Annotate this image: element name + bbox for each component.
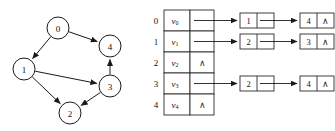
- graph-node-layer: 01234: [13, 17, 121, 124]
- graph-edge-1-to-2: [32, 77, 60, 104]
- list-node-value-1-0: 2: [246, 37, 250, 47]
- list-node-null-1-1: ∧: [322, 37, 329, 47]
- graph-node-label-3: 3: [108, 82, 113, 92]
- graph-edge-0-to-4: [69, 32, 97, 42]
- adjacency-index-3: 3: [154, 79, 159, 89]
- graph-drawing: 01234: [0, 0, 150, 131]
- graph-edge-0-to-1: [33, 37, 51, 59]
- graph-edge-layer: [32, 32, 110, 106]
- adjacency-null-marker-4: ∧: [199, 100, 206, 110]
- adjacency-index-4: 4: [154, 100, 159, 110]
- list-node-value-0-0: 1: [246, 16, 250, 26]
- graph-edge-3-to-2: [81, 92, 100, 105]
- list-node-value-3-0: 2: [246, 79, 250, 89]
- adjacency-null-marker-2: ∧: [199, 58, 206, 68]
- graph-node-label-1: 1: [22, 65, 27, 75]
- list-node-value-1-1: 3: [306, 37, 310, 47]
- adjacency-index-1: 1: [154, 37, 159, 47]
- list-node-null-3-1: ∧: [322, 79, 329, 89]
- list-node-null-0-1: ∧: [322, 16, 329, 26]
- adjacency-list-drawing: 0v014∧1v123∧2v2∧3v324∧4v4∧: [150, 0, 335, 131]
- graph-node-label-2: 2: [68, 109, 73, 119]
- adjacency-index-0: 0: [154, 16, 159, 26]
- figure-canvas: 01234 0v014∧1v123∧2v2∧3v324∧4v4∧: [0, 0, 335, 131]
- directed-graph-panel: 01234: [0, 0, 150, 131]
- adjacency-list-panel: 0v014∧1v123∧2v2∧3v324∧4v4∧: [150, 0, 335, 131]
- graph-node-label-4: 4: [108, 42, 113, 52]
- adjacency-index-2: 2: [154, 58, 159, 68]
- graph-edge-1-to-3: [35, 71, 96, 83]
- graph-node-label-0: 0: [56, 24, 61, 34]
